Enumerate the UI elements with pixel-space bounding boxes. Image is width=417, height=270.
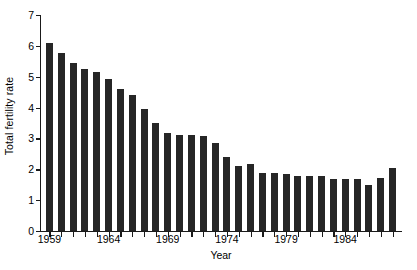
bar [152, 123, 159, 231]
bar [354, 179, 361, 231]
bar [389, 168, 396, 231]
bar [200, 136, 207, 231]
bar [105, 79, 112, 231]
bar [129, 95, 136, 231]
bar [81, 69, 88, 231]
y-tick-label: 4 [18, 103, 34, 113]
bar [93, 72, 100, 231]
bar [212, 143, 219, 231]
bar [70, 63, 77, 231]
y-tick-label: 2 [18, 164, 34, 174]
bar [342, 179, 349, 231]
bar [164, 133, 171, 231]
bar [235, 166, 242, 231]
bars-layer [40, 15, 402, 231]
bar [306, 176, 313, 231]
fertility-rate-bar-chart: Total fertility rate 01234567 1959196419… [0, 0, 417, 270]
x-tick-label: 1959 [29, 233, 69, 246]
x-tick-label: 1979 [266, 233, 306, 246]
y-tick-label: 3 [18, 133, 34, 143]
x-tick-label: 1964 [89, 233, 129, 246]
y-tick-label: 5 [18, 72, 34, 82]
bar [46, 43, 53, 231]
y-tick-label: 6 [18, 41, 34, 51]
y-tick-label: 7 [18, 10, 34, 20]
bar [223, 157, 230, 231]
bar [58, 53, 65, 231]
bar [141, 109, 148, 231]
x-tick-label: 1974 [207, 233, 247, 246]
bar [176, 135, 183, 231]
bar [365, 185, 372, 231]
x-tick-label: 1969 [148, 233, 188, 246]
bar [188, 135, 195, 231]
bar [294, 176, 301, 231]
x-axis-tick-labels: 195919641969197419791984 [40, 233, 402, 247]
y-axis-title: Total fertility rate [2, 0, 16, 232]
bar [271, 173, 278, 231]
y-tick-label: 1 [18, 195, 34, 205]
y-axis-tick-labels: 01234567 [18, 0, 34, 270]
bar [318, 176, 325, 231]
bar [259, 173, 266, 231]
plot-area [40, 15, 402, 231]
bar [247, 164, 254, 231]
x-tick-label: 1984 [325, 233, 365, 246]
bar [330, 179, 337, 231]
bar [377, 178, 384, 231]
x-axis-title: Year [40, 249, 402, 262]
bar [283, 174, 290, 231]
bar [117, 89, 124, 231]
